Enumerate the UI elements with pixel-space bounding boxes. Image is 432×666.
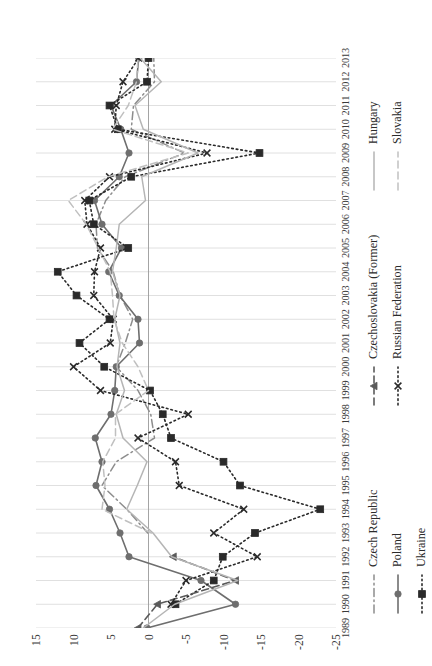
value-tick-label: 5: [105, 634, 117, 640]
data-point-marker: [232, 601, 238, 607]
year-tick-label: 1998: [340, 404, 351, 424]
value-tick-label: 0: [143, 634, 155, 640]
value-tick-label: -10: [218, 634, 230, 650]
legend-item-czechoslovakia-former[interactable]: Czechoslovakia (Former): [366, 191, 381, 406]
series-line: [74, 58, 258, 604]
year-tick-label: 1990: [340, 594, 351, 614]
year-tick-label: 2003: [340, 285, 351, 305]
legend-line-sample: [367, 574, 381, 614]
data-point-marker: [125, 245, 132, 252]
data-point-marker: [237, 482, 244, 489]
value-tick-label: 15: [30, 634, 42, 646]
rotated-figure-wrapper: 151050-5-10-15-20-25 1989199019911992199…: [0, 0, 432, 666]
year-tick-label: 2012: [340, 72, 351, 92]
legend-line-sample: [367, 366, 381, 406]
year-tick-label: 2002: [340, 309, 351, 329]
data-point-marker: [317, 506, 324, 513]
chart-legend: Czech RepublicPolandUkraineCzechoslovaki…: [366, 54, 429, 614]
legend-label: Czech Republic: [366, 490, 381, 568]
year-tick-label: 2009: [340, 143, 351, 163]
year-tick-label: 2000: [340, 357, 351, 377]
data-point-marker: [126, 554, 132, 560]
legend-column: Czech RepublicPolandUkraine: [366, 406, 429, 614]
plot-svg: [36, 58, 336, 628]
data-point-marker: [76, 340, 83, 347]
legend-line-sample: [415, 574, 429, 614]
series-line: [58, 58, 321, 604]
legend-item-slovakia[interactable]: Slovakia: [390, 61, 405, 191]
data-point-marker: [256, 150, 263, 157]
data-point-marker: [73, 292, 80, 299]
year-tick-label: 1989: [340, 618, 351, 638]
data-point-marker: [394, 591, 400, 597]
year-tick-label: 2006: [340, 214, 351, 234]
legend-item-ukraine[interactable]: Ukraine: [414, 406, 429, 614]
data-point-marker: [252, 530, 259, 537]
value-tick-label: -20: [293, 634, 305, 650]
year-tick-label: 1996: [340, 452, 351, 472]
value-tick-label: -15: [255, 634, 267, 650]
legend-line-sample: [391, 366, 405, 406]
data-point-marker: [106, 102, 113, 109]
legend-label: Slovakia: [390, 101, 405, 144]
year-tick-label: 2004: [340, 262, 351, 282]
data-point-marker: [198, 577, 204, 583]
data-point-marker: [394, 383, 401, 390]
data-point-marker: [101, 363, 108, 370]
chart-figure: 151050-5-10-15-20-25 1989199019911992199…: [0, 0, 432, 666]
data-point-marker: [117, 530, 123, 536]
data-point-marker: [54, 268, 61, 275]
year-tick-label: 2008: [340, 167, 351, 187]
series-ukraine: [54, 58, 323, 608]
data-point-marker: [136, 340, 142, 346]
year-tick-label: 2005: [340, 238, 351, 258]
year-tick-label: 2001: [340, 333, 351, 353]
year-tick-label: 1992: [340, 547, 351, 567]
data-point-marker: [145, 58, 152, 61]
year-tick-label: 1999: [340, 380, 351, 400]
year-tick-label: 1991: [340, 570, 351, 590]
year-tick-label: 2007: [340, 190, 351, 210]
legend-item-poland[interactable]: Poland: [390, 406, 405, 614]
series-russian-federation: [70, 58, 261, 608]
data-point-marker: [134, 624, 141, 628]
legend-line-sample: [367, 151, 381, 191]
legend-line-sample: [391, 151, 405, 191]
legend-column: HungarySlovakia: [366, 61, 405, 191]
year-tick-label: 1995: [340, 475, 351, 495]
legend-label: Poland: [390, 533, 405, 567]
data-point-marker: [112, 387, 118, 393]
data-point-marker: [92, 435, 98, 441]
legend-line-sample: [391, 574, 405, 614]
data-point-marker: [99, 221, 105, 227]
data-point-marker: [108, 411, 114, 417]
year-tick-label: 1997: [340, 428, 351, 448]
year-tick-label: 2010: [340, 119, 351, 139]
data-point-marker: [135, 316, 141, 322]
data-point-marker: [144, 78, 151, 85]
year-tick-label: 1993: [340, 523, 351, 543]
legend-item-russian-federation[interactable]: Russian Federation: [390, 191, 405, 406]
plot-area: 151050-5-10-15-20-25: [36, 58, 336, 628]
year-axis-tick-labels: 1989199019911992199319941995199619971998…: [340, 58, 358, 628]
legend-label: Ukraine: [414, 528, 429, 567]
data-point-marker: [159, 411, 166, 418]
data-point-marker: [220, 458, 227, 465]
data-point-marker: [90, 221, 97, 228]
data-point-marker: [418, 591, 425, 598]
legend-column: Czechoslovakia (Former)Russian Federatio…: [366, 191, 405, 406]
data-point-marker: [168, 435, 175, 442]
data-point-marker: [219, 553, 226, 560]
value-tick-label: 10: [68, 634, 80, 646]
data-point-marker: [93, 482, 99, 488]
value-tick-label: -5: [180, 634, 192, 644]
legend-label: Russian Federation: [390, 265, 405, 359]
data-point-marker: [128, 173, 135, 180]
legend-item-czech-republic[interactable]: Czech Republic: [366, 406, 381, 614]
year-tick-label: 1994: [340, 499, 351, 519]
data-point-marker: [210, 577, 217, 584]
year-tick-label: 2011: [340, 96, 351, 116]
legend-item-hungary[interactable]: Hungary: [366, 61, 381, 191]
year-tick-label: 2013: [340, 48, 351, 68]
data-point-marker: [126, 150, 132, 156]
